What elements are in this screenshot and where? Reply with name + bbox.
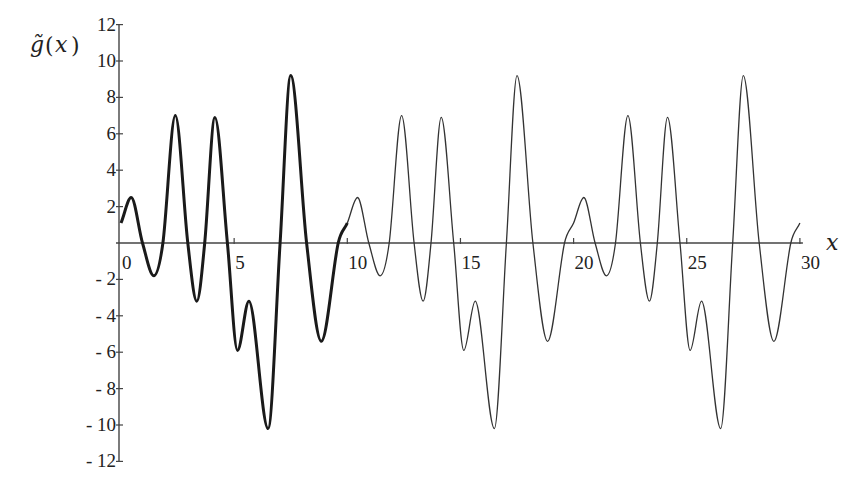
axes [116, 25, 803, 462]
y-axis-title-var: x [55, 32, 68, 57]
y-tick-label: 2 [107, 196, 117, 217]
y-tick-label: 12 [97, 14, 116, 35]
chart-canvas: 051015202530- 12- 10- 8- 6- 4- 224681012… [0, 0, 864, 497]
periodic-extension-curve [347, 76, 800, 429]
first-period-curve [121, 76, 347, 429]
x-axis-title: x [826, 230, 839, 255]
x-tick-label: 30 [801, 252, 820, 273]
x-tick-label: 10 [348, 252, 367, 273]
y-tick-label: - 4 [95, 305, 116, 326]
x-tick-label: 5 [235, 252, 245, 273]
y-tick-label: - 2 [95, 268, 116, 289]
y-tick-label: - 6 [95, 341, 116, 362]
x-tick-label: 25 [688, 252, 707, 273]
y-axis-title-paren-open: ( [45, 33, 54, 58]
y-axis-title-g: g̃ [30, 32, 44, 57]
y-axis-title: g̃ ( x ) [30, 32, 80, 58]
y-tick-label: 10 [97, 50, 116, 71]
y-tick-label: - 12 [86, 450, 116, 471]
x-tick-label: 0 [122, 252, 132, 273]
y-tick-label: 8 [107, 86, 117, 107]
y-axis-title-paren-close: ) [71, 33, 80, 58]
x-tick-label: 15 [461, 252, 480, 273]
y-tick-label: 6 [107, 123, 117, 144]
x-tick-label: 20 [575, 252, 594, 273]
y-tick-label: - 8 [95, 378, 116, 399]
y-tick-label: 4 [107, 159, 117, 180]
y-tick-label: - 10 [86, 414, 116, 435]
